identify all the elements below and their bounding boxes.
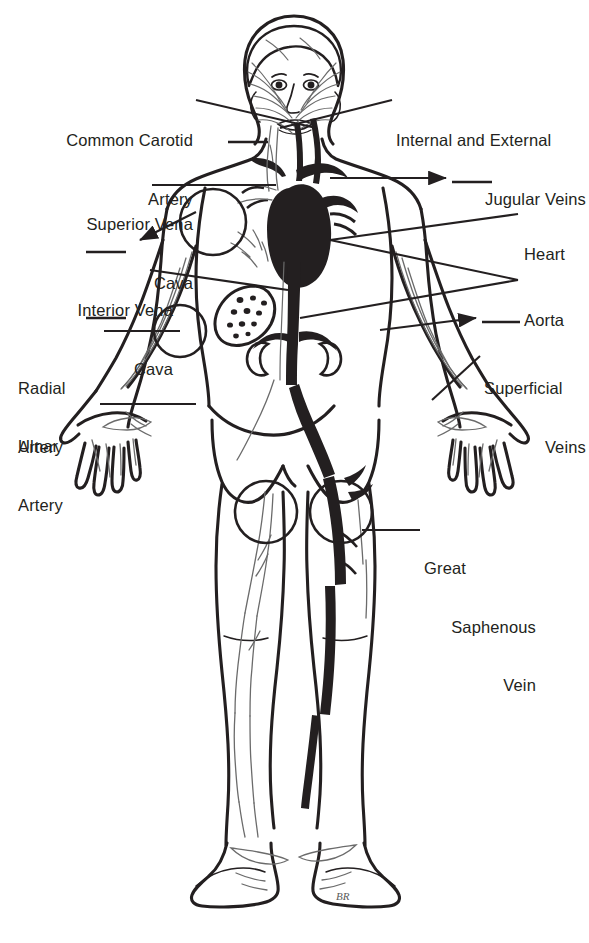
leader-superficial-2: [432, 356, 480, 400]
label-line: Superficial: [484, 379, 586, 399]
label-line: Veins: [484, 438, 586, 458]
label-line: Artery: [18, 496, 98, 516]
artist-signature: BR: [336, 890, 350, 902]
label-ulnar-artery: Ulnar Artery: [18, 398, 98, 554]
label-great-saphenous-vein: Great Saphenous Vein: [424, 520, 536, 735]
label-line: Saphenous: [424, 618, 536, 638]
label-superficial-veins: Superficial Veins: [484, 340, 586, 496]
label-line: Superior Vena: [18, 215, 193, 235]
leader-aorta-2: [300, 280, 518, 318]
label-line: Great: [424, 559, 536, 579]
label-line: Radial: [18, 379, 103, 399]
circle-femoral-left: [235, 481, 297, 543]
label-line: Aorta: [524, 311, 586, 331]
label-line: Heart: [524, 245, 586, 265]
head-vessels: [248, 38, 340, 166]
diagram-canvas: BR Common Carotid Artery Internal and Ex…: [0, 0, 589, 943]
label-line: Common Carotid: [18, 131, 193, 151]
label-line: Ulnar: [18, 437, 98, 457]
arteries: [242, 118, 373, 809]
label-line: Interior Vena: [18, 301, 173, 321]
label-line: Vein: [424, 676, 536, 696]
label-line: Internal and External: [396, 131, 586, 151]
